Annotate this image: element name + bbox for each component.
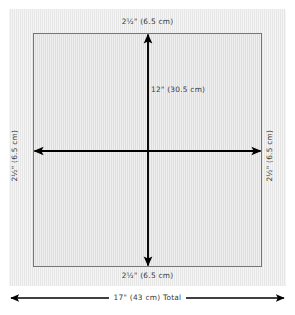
total-width-label: 17" (43 cm) Total bbox=[0, 294, 295, 301]
inner-square-outline bbox=[33, 33, 262, 267]
bottom-margin-label: 2½" (6.5 cm) bbox=[0, 272, 295, 279]
right-margin-label: 2½" (6.5 cm) bbox=[266, 116, 273, 196]
total-width-label-text: 17" (43 cm) Total bbox=[109, 293, 187, 302]
inner-square-dimension-label: 12" (30.5 cm) bbox=[151, 86, 205, 93]
top-margin-label: 2½" (6.5 cm) bbox=[0, 18, 295, 25]
fabric-dimension-diagram: 2½" (6.5 cm) 12" (30.5 cm) 2½" (6.5 cm) … bbox=[0, 0, 295, 315]
left-margin-label: 2½" (6.5 cm) bbox=[11, 116, 18, 196]
